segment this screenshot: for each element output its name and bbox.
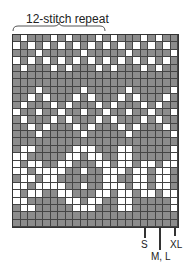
chart-cell xyxy=(81,220,89,227)
chart-cell xyxy=(58,131,66,138)
chart-cell xyxy=(156,153,164,160)
chart-cell xyxy=(156,50,164,57)
chart-cell xyxy=(81,65,89,72)
chart-cell xyxy=(88,79,96,86)
chart-cell xyxy=(133,212,141,219)
chart-cell xyxy=(96,35,104,42)
chart-cell xyxy=(43,35,51,42)
chart-cell xyxy=(148,146,156,153)
chart-cell xyxy=(103,198,111,205)
chart-cell xyxy=(21,124,29,131)
chart-cell xyxy=(88,35,96,42)
chart-cell xyxy=(96,94,104,101)
chart-cell xyxy=(28,35,36,42)
chart-cell xyxy=(141,153,149,160)
chart-cell xyxy=(81,138,89,145)
chart-cell xyxy=(73,72,81,79)
chart-cell xyxy=(118,50,126,57)
chart-cell xyxy=(36,87,44,94)
chart-cell xyxy=(111,94,119,101)
chart-cell xyxy=(58,220,66,227)
chart-cell xyxy=(133,131,141,138)
chart-cell xyxy=(73,50,81,57)
chart-cell xyxy=(148,79,156,86)
chart-cell xyxy=(171,138,179,145)
chart-cell xyxy=(133,175,141,182)
chart-cell xyxy=(111,79,119,86)
chart-cell xyxy=(141,79,149,86)
chart-cell xyxy=(141,116,149,123)
chart-cell xyxy=(36,42,44,49)
chart-cell xyxy=(148,190,156,197)
chart-cell xyxy=(111,153,119,160)
chart-cell xyxy=(43,220,51,227)
chart-cell xyxy=(156,205,164,212)
chart-cell xyxy=(118,161,126,168)
chart-cell xyxy=(28,131,36,138)
chart-cell xyxy=(88,212,96,219)
chart-cell xyxy=(163,35,171,42)
chart-cell xyxy=(51,205,59,212)
chart-cell xyxy=(81,183,89,190)
chart-cell xyxy=(58,146,66,153)
chart-cell xyxy=(88,116,96,123)
chart-cell xyxy=(148,212,156,219)
chart-cell xyxy=(21,116,29,123)
chart-cell xyxy=(171,124,179,131)
chart-cell xyxy=(81,131,89,138)
chart-cell xyxy=(118,198,126,205)
chart-cell xyxy=(66,87,74,94)
chart-cell xyxy=(73,153,81,160)
chart-cell xyxy=(36,212,44,219)
chart-cell xyxy=(21,168,29,175)
chart-cell xyxy=(171,94,179,101)
chart-cell xyxy=(43,87,51,94)
chart-cell xyxy=(88,168,96,175)
chart-cell xyxy=(51,175,59,182)
chart-cell xyxy=(43,65,51,72)
chart-cell xyxy=(28,42,36,49)
chart-cell xyxy=(156,65,164,72)
chart-cell xyxy=(43,190,51,197)
chart-cell xyxy=(73,87,81,94)
chart-cell xyxy=(36,94,44,101)
chart-cell xyxy=(103,212,111,219)
chart-cell xyxy=(171,35,179,42)
chart-cell xyxy=(103,190,111,197)
chart-cell xyxy=(96,205,104,212)
chart-cell xyxy=(81,116,89,123)
chart-cell xyxy=(13,102,21,109)
chart-cell xyxy=(36,102,44,109)
chart-cell xyxy=(13,124,21,131)
chart-cell xyxy=(73,161,81,168)
chart-cell xyxy=(103,153,111,160)
chart-cell xyxy=(171,109,179,116)
chart-cell xyxy=(126,175,134,182)
chart-cell xyxy=(148,42,156,49)
chart-cell xyxy=(126,124,134,131)
colorwork-chart xyxy=(12,34,179,228)
chart-cell xyxy=(13,168,21,175)
chart-cell xyxy=(148,35,156,42)
chart-cell xyxy=(58,153,66,160)
chart-cell xyxy=(51,131,59,138)
chart-cell xyxy=(51,220,59,227)
chart-cell xyxy=(141,35,149,42)
chart-cell xyxy=(156,212,164,219)
chart-cell xyxy=(171,220,179,227)
chart-cell xyxy=(171,116,179,123)
chart-cell xyxy=(58,205,66,212)
chart-cell xyxy=(13,79,21,86)
chart-cell xyxy=(73,116,81,123)
chart-cell xyxy=(148,153,156,160)
chart-cell xyxy=(43,175,51,182)
chart-cell xyxy=(13,116,21,123)
chart-cell xyxy=(171,198,179,205)
chart-cell xyxy=(73,65,81,72)
chart-cell xyxy=(126,153,134,160)
chart-cell xyxy=(103,109,111,116)
chart-cell xyxy=(28,50,36,57)
chart-cell xyxy=(88,131,96,138)
chart-cell xyxy=(163,175,171,182)
size-label-ml: M, L xyxy=(151,251,170,262)
